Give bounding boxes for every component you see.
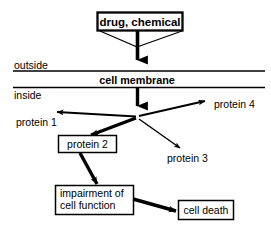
edge-branch-to-protein4 bbox=[139, 101, 205, 116]
drug-feeder-lines bbox=[100, 31, 182, 47]
flowchart-svg: drug, chemical outside cell membrane ins… bbox=[0, 0, 271, 235]
diagram-canvas: drug, chemical outside cell membrane ins… bbox=[0, 0, 271, 235]
protein1-label[interactable]: protein 1 bbox=[16, 116, 57, 128]
celldeath-label: cell death bbox=[184, 204, 229, 216]
edge-branch-to-protein2 bbox=[91, 118, 136, 135]
cell-membrane-label: cell membrane bbox=[99, 74, 175, 86]
protein4-label[interactable]: protein 4 bbox=[214, 98, 255, 110]
drug-box-label: drug, chemical bbox=[99, 16, 180, 28]
protein2-label: protein 2 bbox=[67, 138, 108, 150]
edge-protein2-to-impairment bbox=[80, 153, 97, 184]
protein3-label[interactable]: protein 3 bbox=[167, 152, 208, 164]
edge-branch-to-protein1 bbox=[57, 112, 136, 117]
edge-impairment-to-celldeath bbox=[133, 199, 176, 211]
outside-label: outside bbox=[14, 59, 48, 71]
impairment-label-line1: impairment of bbox=[60, 187, 124, 199]
inside-label: inside bbox=[14, 89, 42, 101]
impairment-label-line2: cell function bbox=[60, 199, 116, 211]
edge-branch-to-protein3 bbox=[139, 119, 180, 148]
